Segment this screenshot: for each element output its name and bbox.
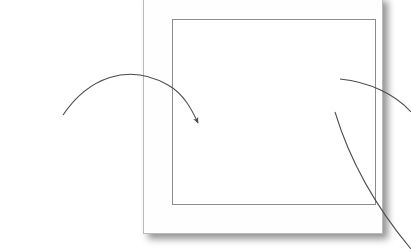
scatter-plot-svg xyxy=(173,20,375,204)
page-canvas xyxy=(0,0,411,249)
plot-area xyxy=(172,19,376,205)
chart-card xyxy=(143,0,383,234)
chart-card-inner xyxy=(144,0,382,233)
